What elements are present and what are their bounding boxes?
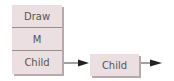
arrow-stack-to-child (64, 60, 89, 67)
arrows-layer (0, 0, 174, 81)
arrow-child-to-next (141, 60, 162, 67)
